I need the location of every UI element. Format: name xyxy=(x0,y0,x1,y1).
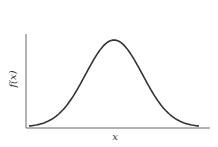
y-axis-label: f(x) xyxy=(7,70,18,88)
x-axis-label: x xyxy=(112,131,118,142)
bell-curve-chart: x f(x) xyxy=(0,0,218,147)
density-curve xyxy=(29,40,199,126)
